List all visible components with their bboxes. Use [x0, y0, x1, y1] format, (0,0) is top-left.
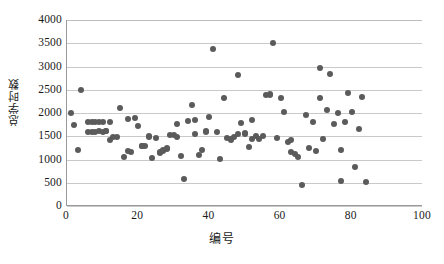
data-point	[310, 119, 316, 125]
data-point	[189, 102, 195, 108]
x-axis-title: 编号	[0, 232, 444, 246]
data-point	[274, 135, 280, 141]
data-point	[303, 112, 309, 118]
y-axis-tick-label: 1000	[2, 154, 62, 166]
x-axis-tick-label: 80	[331, 209, 371, 221]
data-point	[174, 121, 180, 127]
data-point	[135, 123, 141, 129]
data-point	[317, 65, 323, 71]
data-point	[71, 122, 77, 128]
data-point	[181, 176, 187, 182]
data-point	[128, 149, 134, 155]
data-point	[338, 147, 344, 153]
y-axis-tick-label: 2000	[2, 107, 62, 119]
gridline	[67, 113, 422, 114]
x-axis-tick-labels: 020406080100	[66, 209, 422, 225]
data-point	[331, 121, 337, 127]
data-point	[356, 126, 362, 132]
x-axis-tick-label: 20	[117, 209, 157, 221]
data-point	[199, 147, 205, 153]
data-point	[142, 143, 148, 149]
data-point	[335, 110, 341, 116]
data-point	[107, 119, 113, 125]
x-axis-tick-label: 40	[188, 209, 228, 221]
y-axis-tick-label: 4000	[2, 14, 62, 26]
scatter-chart: 总学时数 05001000150020002500300035004000 02…	[0, 0, 444, 264]
gridline	[67, 206, 422, 207]
data-point	[260, 133, 266, 139]
data-point	[352, 164, 358, 170]
plot-area	[66, 20, 422, 206]
data-point	[345, 90, 351, 96]
data-point	[117, 105, 123, 111]
y-axis-tick-labels: 05001000150020002500300035004000	[0, 20, 62, 206]
y-axis-tick-label: 500	[2, 177, 62, 189]
data-point	[320, 136, 326, 142]
data-point	[342, 119, 348, 125]
x-axis-tick-label: 100	[402, 209, 442, 221]
data-point	[246, 144, 252, 150]
data-point	[278, 95, 284, 101]
data-point	[196, 152, 202, 158]
gridline	[67, 67, 422, 68]
data-point	[114, 134, 120, 140]
data-point	[75, 147, 81, 153]
data-point	[146, 134, 152, 140]
data-point	[249, 117, 255, 123]
data-point	[210, 46, 216, 52]
y-axis-tick-label: 3500	[2, 37, 62, 49]
x-axis-tick-label: 0	[46, 209, 86, 221]
data-point	[125, 116, 131, 122]
gridline	[67, 43, 422, 44]
data-point	[78, 87, 84, 93]
data-point	[221, 95, 227, 101]
data-point	[217, 156, 223, 162]
data-point	[192, 117, 198, 123]
data-point	[174, 134, 180, 140]
data-point	[363, 179, 369, 185]
data-point	[267, 92, 273, 98]
data-point	[214, 129, 220, 135]
x-axis-tick-label: 60	[260, 209, 300, 221]
data-point	[281, 109, 287, 115]
data-point	[327, 71, 333, 77]
data-point	[185, 118, 191, 124]
data-point	[270, 40, 276, 46]
data-point	[349, 109, 355, 115]
gridline	[67, 90, 422, 91]
data-point	[68, 110, 74, 116]
y-axis-tick-label: 1500	[2, 130, 62, 142]
data-point	[288, 137, 294, 143]
data-point	[121, 154, 127, 160]
y-axis-tick-label: 2500	[2, 84, 62, 96]
data-point	[235, 131, 241, 137]
data-point	[100, 119, 106, 125]
data-point	[103, 128, 109, 134]
data-point	[153, 135, 159, 141]
data-point	[313, 148, 319, 154]
data-point	[338, 178, 344, 184]
y-axis-tick-label: 3000	[2, 61, 62, 73]
data-point	[359, 94, 365, 100]
data-point	[164, 145, 170, 151]
data-point	[206, 114, 212, 120]
data-point	[299, 182, 305, 188]
gridline	[67, 160, 422, 161]
gridline	[67, 20, 422, 21]
data-point	[203, 129, 209, 135]
data-point	[306, 145, 312, 151]
data-point	[238, 120, 244, 126]
data-point	[132, 115, 138, 121]
data-point	[235, 72, 241, 78]
data-point	[317, 95, 323, 101]
